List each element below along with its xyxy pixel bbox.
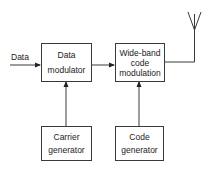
block-label-line: modulator [48,65,86,75]
wideband-code-modulation-block: Wide-band code modulation [115,43,165,82]
block-label-line: Data [58,50,76,60]
data-modulator-block: Data modulator [41,43,92,82]
connection-lines [0,0,210,178]
code-generator-block: Code generator [115,126,164,161]
block-label-line: code [131,58,149,68]
block-label-line: modulation [119,68,161,78]
block-label-line: Carrier [54,132,80,142]
block-label-line: Wide-band [119,48,160,58]
wideband-to-antenna-line [164,30,195,62]
block-label-line: Code [129,132,149,142]
antenna-icon [188,12,201,30]
data-input-label: Data [11,52,29,62]
block-label-line: generator [48,145,84,155]
carrier-generator-block: Carrier generator [41,126,92,161]
block-label-line: generator [121,145,157,155]
